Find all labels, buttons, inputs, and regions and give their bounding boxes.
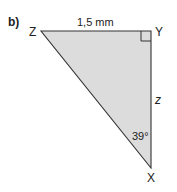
triangle-xyz: [41, 31, 151, 168]
triangle-diagram: b) Z Y X 1,5 mm z 39°: [0, 0, 177, 192]
side-yx-label: z: [154, 93, 161, 107]
side-zy-label: 1,5 mm: [77, 16, 114, 28]
vertex-x-label: X: [147, 171, 155, 185]
vertex-z-label: Z: [29, 25, 36, 39]
angle-x-label: 39°: [132, 130, 149, 142]
vertex-y-label: Y: [155, 25, 163, 39]
problem-label: b): [8, 15, 19, 29]
